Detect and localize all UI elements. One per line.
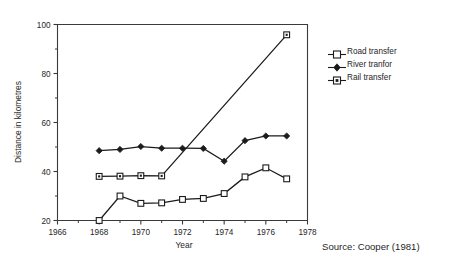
source-caption: Source: Cooper (1981) <box>322 241 420 252</box>
x-axis-ticks <box>58 221 308 225</box>
legend: Road transfer River tranfor Rail transfe… <box>327 46 447 85</box>
data-point-road-transfer <box>117 193 123 199</box>
legend-label-road: Road transfer <box>347 46 397 57</box>
legend-item-river: River tranfor <box>327 59 447 70</box>
data-point-dot <box>161 175 163 177</box>
series-layer <box>96 32 290 224</box>
y-tick-label: 20 <box>41 217 51 226</box>
y-tick-label: 100 <box>37 21 51 30</box>
y-tick-label: 60 <box>41 119 51 128</box>
filled-diamond-icon <box>327 59 347 70</box>
y-tick-label: 80 <box>41 70 51 79</box>
series-rail-transfer <box>96 32 289 179</box>
legend-label-river: River tranfor <box>347 59 392 70</box>
data-point-river-tranfor <box>117 146 123 152</box>
data-point-dot <box>140 175 142 177</box>
data-point-river-tranfor <box>159 145 165 151</box>
legend-item-road: Road transfer <box>327 46 447 57</box>
dotted-square-icon <box>327 72 347 83</box>
data-point-road-transfer <box>138 200 144 206</box>
legend-item-rail: Rail transfer <box>327 72 447 83</box>
data-point-river-tranfor <box>96 148 102 154</box>
data-point-dot <box>286 34 288 36</box>
data-point-road-transfer <box>180 197 186 203</box>
y-tick-label: 40 <box>41 168 51 177</box>
x-tick-label: 1976 <box>257 228 276 237</box>
x-tick-label: 1970 <box>132 228 151 237</box>
data-point-road-transfer <box>263 165 269 171</box>
data-point-river-tranfor <box>138 143 144 149</box>
data-point-dot <box>98 175 100 177</box>
x-tick-label: 1978 <box>298 228 317 237</box>
line-chart: 20406080100 1966196819701972197419761978… <box>0 0 453 269</box>
x-tick-label: 1966 <box>48 228 67 237</box>
data-point-road-transfer <box>242 174 248 180</box>
open-square-icon <box>327 46 347 57</box>
x-axis-title: Year <box>176 240 193 250</box>
data-point-river-tranfor <box>284 133 290 139</box>
data-point-road-transfer <box>200 196 206 202</box>
series-river-tranfor <box>96 133 290 164</box>
data-point-road-transfer <box>221 191 227 197</box>
x-tick-label: 1974 <box>215 228 234 237</box>
y-axis-title: Distance in kilometres <box>13 81 23 163</box>
x-tick-label: 1972 <box>173 228 192 237</box>
x-axis-tick-labels: 1966196819701972197419761978 <box>48 228 317 237</box>
data-point-road-transfer <box>159 200 165 206</box>
data-point-river-tranfor <box>200 145 206 151</box>
y-axis-ticks <box>54 25 58 221</box>
x-tick-label: 1968 <box>90 228 109 237</box>
series-line-rail-transfer <box>99 35 287 177</box>
data-point-road-transfer <box>96 218 102 224</box>
figure-container: 20406080100 1966196819701972197419761978… <box>0 0 453 269</box>
legend-label-rail: Rail transfer <box>347 72 391 83</box>
y-axis-tick-labels: 20406080100 <box>37 21 51 226</box>
data-point-road-transfer <box>284 176 290 182</box>
data-point-dot <box>119 175 121 177</box>
series-road-transfer <box>96 165 289 223</box>
data-point-river-tranfor <box>263 133 269 139</box>
